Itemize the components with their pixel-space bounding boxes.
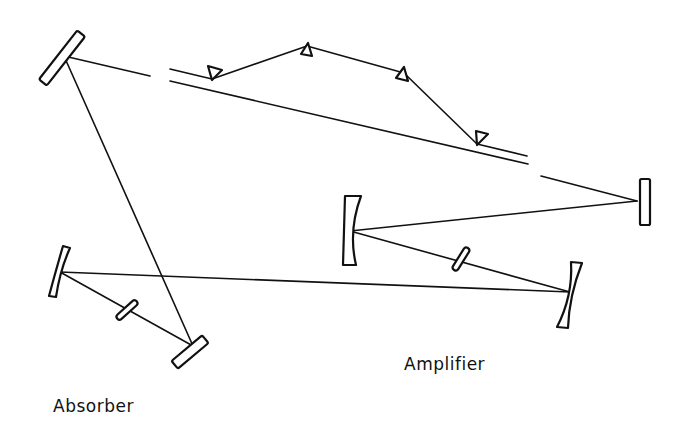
laser-cavity-diagram: Amplifier Absorber	[0, 0, 684, 431]
beam-direct-segment-c	[541, 176, 637, 201]
end-mirror-right	[640, 179, 650, 225]
beam-prism-1-to-2	[212, 46, 307, 79]
beam-prism-2-to-3	[307, 46, 404, 73]
amplifier-label: Amplifier	[404, 354, 485, 374]
fold-mirror-top-left	[39, 30, 85, 85]
amplifier-gain-medium	[452, 246, 471, 271]
absorber-label: Absorber	[53, 396, 134, 416]
amplifier-curved-mirror-right	[557, 262, 582, 328]
beam-end-to-amp-left	[350, 201, 637, 231]
prism-3	[396, 67, 408, 81]
prism-2	[301, 43, 312, 56]
cavity-drawing	[0, 0, 684, 431]
beam-direct-segment-b	[170, 81, 528, 164]
absorber-saturable-medium	[115, 299, 138, 321]
beam-prism-3-to-4	[404, 73, 477, 144]
beam-amp-right-to-absorber-left	[60, 272, 570, 292]
beam-topleft-segment-a	[64, 56, 150, 76]
beam-to-prism-1	[170, 69, 212, 79]
beam-absorber-end-to-fold	[64, 56, 193, 346]
prism-4	[476, 131, 488, 145]
